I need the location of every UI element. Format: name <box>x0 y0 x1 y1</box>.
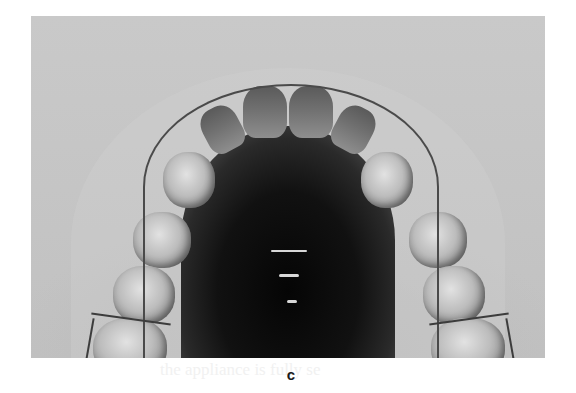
expansion-screw-highlight <box>279 274 299 277</box>
dental-cast-photo <box>31 16 545 358</box>
expansion-screw-highlight <box>287 300 297 303</box>
expansion-screw-highlight <box>271 250 307 252</box>
panel-label: c <box>284 366 298 383</box>
labial-bow-wire <box>143 84 439 358</box>
bleed-through-text: the appliance is fully se <box>160 360 480 380</box>
